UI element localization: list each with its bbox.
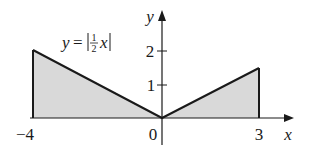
function-label-lhs: y (60, 33, 70, 52)
x-tick-label-3: 3 (255, 125, 264, 144)
fraction-denominator: 2 (92, 43, 97, 54)
function-label-equals: = (73, 33, 83, 52)
y-axis-label: y (144, 7, 154, 26)
x-axis-label: x (283, 125, 292, 144)
y-tick-label-2: 2 (146, 42, 155, 61)
x-tick-label-neg4: −4 (16, 125, 35, 144)
x-tick-label-0: 0 (149, 125, 158, 144)
function-label: y = 1 2 x (60, 32, 110, 54)
chart-canvas: −4 0 3 1 2 x y y = 1 2 x (0, 0, 318, 148)
y-tick-label-1: 1 (147, 76, 156, 95)
fraction-numerator: 1 (92, 32, 97, 43)
function-label-var: x (99, 33, 108, 52)
y-axis-arrow-icon (158, 10, 166, 21)
x-axis-arrow-icon (284, 114, 294, 122)
